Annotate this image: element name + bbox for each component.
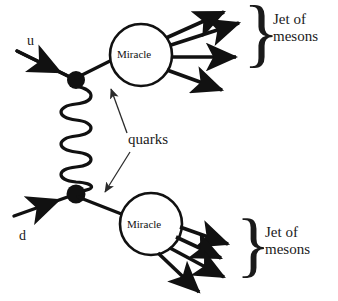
jet-bottom-label-line1: Jet of [265,224,310,241]
jet-top-arrow-2 [171,23,239,45]
quarks-annotation-label: quarks [128,131,168,148]
jet-top-arrows [166,12,239,90]
quarks-pointer-arrows [105,89,130,192]
gluon-exchange-coil [61,86,92,191]
jet-bottom-label: Jet of mesons [265,224,310,258]
quarks-pointer-up [111,89,127,133]
incoming-u-quark-label: u [27,33,34,49]
jet-top-label: Jet of mesons [273,11,318,45]
incoming-u-quark-line [17,51,76,80]
miracle-blob-top-label: Miracle [117,48,151,60]
bottom-vertex-dot [67,185,86,204]
miracle-blob-bottom-label: Miracle [127,218,161,230]
jet-top-arrow-4 [167,70,222,90]
incoming-d-quark-label: d [19,228,26,244]
jet-top-label-line2: mesons [273,28,318,45]
quarks-pointer-down [105,152,130,192]
bottom-scattered-quark-line [78,197,124,215]
jet-bottom-label-line2: mesons [265,241,310,258]
top-scattered-quark-line [76,60,112,78]
feynman-diagram-canvas: Miracle Miracle u d quarks } Jet of meso… [0,0,338,301]
jet-top-label-line1: Jet of [273,11,318,28]
incoming-d-quark-line [14,194,76,216]
jet-top-arrow-1 [166,12,224,38]
